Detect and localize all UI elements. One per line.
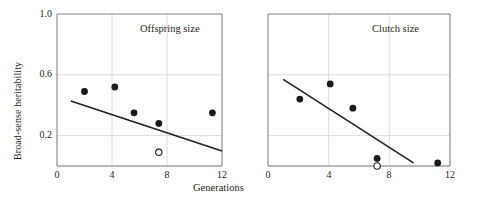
data-point [327,81,334,88]
data-point [374,155,381,162]
panel-clutch-size: 0 4 8 12 Clutch size [0,0,477,203]
figure-container: Broad-sense heritability Generations [0,0,477,203]
x-tick-label: 4 [317,169,341,180]
data-point [350,105,357,112]
panel-title-clutch-size: Clutch size [372,23,419,34]
data-point [434,160,441,167]
x-tick-label: 8 [377,169,401,180]
data-point [296,96,303,103]
x-tick-label: 0 [256,169,280,180]
regression-line [283,79,413,162]
x-tick-label: 12 [438,169,462,180]
